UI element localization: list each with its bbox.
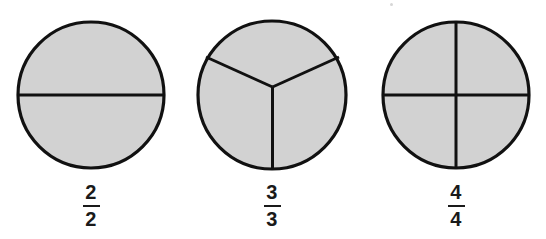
fraction-label-four-quarters: 4 4 xyxy=(426,182,486,230)
fraction-bar-icon xyxy=(83,205,100,207)
fraction-denominator: 2 xyxy=(61,209,121,230)
fraction-bar-icon xyxy=(264,205,281,207)
fraction-label-three-thirds: 3 3 xyxy=(242,182,302,230)
fraction-circles-figure: 2 2 3 3 4 4 xyxy=(0,0,546,239)
circle-four-quarters xyxy=(383,22,529,168)
fraction-label-two-halves: 2 2 xyxy=(61,182,121,230)
fraction-denominator: 3 xyxy=(242,209,302,230)
fraction-bar-icon xyxy=(448,205,465,207)
scan-artifact-speck xyxy=(390,3,393,6)
fraction-numerator: 2 xyxy=(61,182,121,203)
fraction-denominator: 4 xyxy=(426,209,486,230)
circle-three-thirds xyxy=(198,21,346,169)
circle-two-halves xyxy=(18,22,164,168)
fraction-numerator: 4 xyxy=(426,182,486,203)
fraction-numerator: 3 xyxy=(242,182,302,203)
